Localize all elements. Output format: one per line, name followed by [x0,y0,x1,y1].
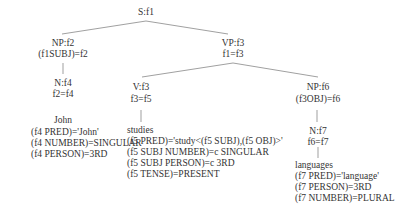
feature: (f4 PRED)='John' [31,127,99,138]
node-np-obj-eq: (f3OBJ)=f6 [296,94,340,105]
node-np-subj-eq: (f1SUBJ)=f2 [38,49,88,60]
node-vp-eq: f1=f3 [222,49,243,60]
node-n-lang: N:f7 [309,126,326,137]
feature: (f5 TENSE)=PRESENT [127,169,220,180]
feature: (f5 SUBJ PERSON)=c 3RD [127,158,235,169]
node-np-subj: NP:f2 [52,38,75,49]
node-n-john: N:f4 [54,78,71,89]
word-john: John [54,115,72,126]
node-v: V:f3 [133,82,150,93]
feature: (f4 PERSON)=3RD [31,149,107,160]
word-languages: languages [295,160,333,171]
node-vp: VP:f3 [222,38,245,49]
node-s: S:f1 [138,7,154,18]
node-n-lang-eq: f6=f7 [307,137,328,148]
feature: (f5 SUBJ NUMBER)=c SINGULAR [127,147,269,158]
feature: (f7 PERSON)=3RD [295,182,371,193]
word-studies: studies [127,125,153,136]
feature: (f5 PRED)='study<(f5 SUBJ),(f5 OBJ)>' [127,136,283,147]
node-np-obj: NP:f6 [307,82,330,93]
feature: (f4 NUMBER)=SINGULAR [31,138,142,149]
node-n-john-eq: f2=f4 [52,89,73,100]
feature: (f7 PRED)='language' [295,171,379,182]
node-v-eq: f3=f5 [130,94,151,105]
feature: (f7 NUMBER)=PLURAL [295,193,395,204]
